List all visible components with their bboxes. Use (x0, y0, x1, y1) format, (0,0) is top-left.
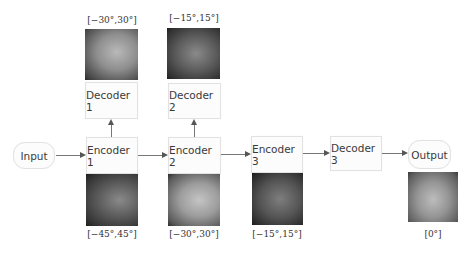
face-image-decoder2 (167, 28, 220, 79)
angle-label-output: [0°] (398, 229, 468, 239)
arrow-encoder3-to-decoder3 (303, 153, 324, 154)
decoder-1-box: Decoder 1 (85, 82, 138, 119)
arrowhead-up-icon (191, 119, 197, 125)
decoder-3-label: Decoder 3 (331, 142, 381, 166)
angle-label-encoder1: [−45°,45°] (77, 229, 147, 239)
angle-label-encoder3: [−15°,15°] (242, 229, 312, 239)
face-image-encoder1 (86, 174, 138, 226)
decoder-3-box: Decoder 3 (330, 136, 382, 171)
arrow-decoder3-to-output (382, 153, 402, 154)
output-label: Output (411, 149, 447, 161)
decoder-2-label: Decoder 2 (169, 89, 220, 113)
angle-label-decoder1: [−30°,30°] (77, 15, 147, 25)
angle-label-decoder2: [−15°,15°] (159, 13, 229, 23)
arrowhead-up-icon (108, 119, 114, 125)
output-node: Output (408, 140, 451, 169)
arrow-encoder1-to-decoder1 (111, 124, 112, 137)
decoder-2-box: Decoder 2 (168, 83, 221, 119)
arrow-encoder2-to-decoder2 (194, 124, 195, 137)
encoder-3-box: Encoder 3 (251, 136, 303, 173)
angle-label-encoder2: [−30°,30°] (159, 229, 229, 239)
face-image-encoder3 (252, 173, 303, 225)
input-node: Input (13, 142, 55, 169)
arrow-encoder1-to-encoder2 (138, 155, 162, 156)
face-image-output (408, 172, 458, 222)
arrow-encoder2-to-encoder3 (221, 154, 245, 155)
face-image-encoder2 (168, 174, 220, 226)
arrow-input-to-encoder1 (56, 155, 80, 156)
decoder-1-label: Decoder 1 (86, 89, 137, 113)
encoder-2-label: Encoder 2 (169, 144, 220, 168)
encoder-3-label: Encoder 3 (252, 143, 302, 167)
encoder-1-label: Encoder 1 (87, 144, 137, 168)
input-label: Input (20, 150, 47, 162)
encoder-1-box: Encoder 1 (86, 137, 138, 174)
face-image-decoder1 (85, 29, 138, 80)
encoder-2-box: Encoder 2 (168, 137, 221, 174)
